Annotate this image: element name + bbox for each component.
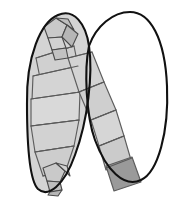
band-illustration — [0, 0, 185, 207]
figure-container — [0, 0, 185, 207]
crumple-top-facet-5 — [52, 48, 68, 60]
